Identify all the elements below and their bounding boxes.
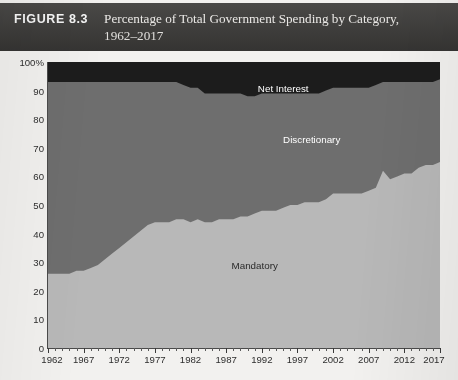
figure-title-line-2: 1962–2017 [104, 28, 399, 45]
x-tick-label: 1967 [73, 354, 94, 365]
area-chart-svg [48, 62, 440, 348]
x-tick-minor [426, 348, 427, 351]
x-tick-minor [77, 348, 78, 351]
x-tick-label: 1987 [216, 354, 237, 365]
x-axis-ticks [48, 348, 440, 353]
x-tick-minor [305, 348, 306, 351]
x-tick-minor [290, 348, 291, 351]
x-tick-minor [312, 348, 313, 351]
x-tick-minor [347, 348, 348, 351]
x-tick-label: 2017 [423, 354, 444, 365]
x-tick-minor [98, 348, 99, 351]
x-tick-major [440, 348, 441, 353]
y-axis-labels: 0102030405060708090100% [0, 51, 44, 360]
x-tick-minor [433, 348, 434, 351]
y-tick-label: 70 [2, 142, 44, 153]
x-tick-minor [91, 348, 92, 351]
y-tick-label: 40 [2, 228, 44, 239]
x-tick-minor [240, 348, 241, 351]
x-tick-minor [55, 348, 56, 351]
x-tick-major [404, 348, 405, 353]
x-tick-minor [276, 348, 277, 351]
x-tick-minor [183, 348, 184, 351]
figure-number-label: FIGURE 8.3 [14, 12, 88, 26]
y-tick-label: 20 [2, 285, 44, 296]
x-tick-minor [248, 348, 249, 351]
x-tick-minor [62, 348, 63, 351]
x-tick-minor [126, 348, 127, 351]
x-tick-label: 2007 [358, 354, 379, 365]
x-tick-major [262, 348, 263, 353]
figure-title-line-1: Percentage of Total Government Spending … [104, 11, 399, 28]
x-tick-minor [233, 348, 234, 351]
x-tick-minor [134, 348, 135, 351]
x-tick-minor [376, 348, 377, 351]
x-tick-major [155, 348, 156, 353]
y-tick-label: 50 [2, 200, 44, 211]
x-tick-minor [326, 348, 327, 351]
chart-area: 0102030405060708090100% 1962196719721977… [0, 51, 458, 380]
x-tick-minor [362, 348, 363, 351]
x-tick-label: 1962 [41, 354, 62, 365]
x-tick-minor [205, 348, 206, 351]
x-tick-minor [340, 348, 341, 351]
x-tick-major [297, 348, 298, 353]
x-tick-minor [176, 348, 177, 351]
y-tick-label: 0 [2, 343, 44, 354]
x-tick-minor [255, 348, 256, 351]
x-tick-minor [219, 348, 220, 351]
x-tick-major [119, 348, 120, 353]
x-tick-minor [112, 348, 113, 351]
y-tick-label: 30 [2, 257, 44, 268]
y-tick-label: 60 [2, 171, 44, 182]
figure-header-bar: FIGURE 8.3 Percentage of Total Governmen… [0, 3, 458, 51]
x-tick-major [333, 348, 334, 353]
x-tick-major [226, 348, 227, 353]
stacked-area-plot [48, 62, 440, 348]
x-tick-minor [69, 348, 70, 351]
y-tick-label: 90 [2, 85, 44, 96]
figure-root: FIGURE 8.3 Percentage of Total Governmen… [0, 0, 458, 380]
x-tick-minor [411, 348, 412, 351]
x-tick-label: 1992 [251, 354, 272, 365]
x-tick-minor [319, 348, 320, 351]
x-tick-minor [162, 348, 163, 351]
x-tick-major [369, 348, 370, 353]
x-tick-major [48, 348, 49, 353]
x-tick-minor [383, 348, 384, 351]
x-axis-labels: 1962196719721977198219871992199720022007… [0, 354, 458, 370]
y-tick-label: 100% [2, 57, 44, 68]
x-tick-minor [390, 348, 391, 351]
x-tick-label: 1977 [144, 354, 165, 365]
figure-title: Percentage of Total Government Spending … [104, 11, 399, 44]
y-axis-line [47, 62, 48, 349]
y-tick-label: 80 [2, 114, 44, 125]
x-tick-major [191, 348, 192, 353]
x-tick-minor [419, 348, 420, 351]
x-tick-minor [141, 348, 142, 351]
x-tick-minor [148, 348, 149, 351]
x-tick-minor [397, 348, 398, 351]
x-tick-minor [269, 348, 270, 351]
x-tick-minor [212, 348, 213, 351]
x-tick-minor [169, 348, 170, 351]
y-tick-label: 10 [2, 314, 44, 325]
x-tick-minor [105, 348, 106, 351]
x-tick-label: 1997 [287, 354, 308, 365]
x-tick-label: 2012 [394, 354, 415, 365]
x-tick-label: 2002 [322, 354, 343, 365]
x-tick-minor [354, 348, 355, 351]
x-tick-label: 1982 [180, 354, 201, 365]
x-tick-major [84, 348, 85, 353]
x-tick-minor [198, 348, 199, 351]
x-tick-label: 1972 [109, 354, 130, 365]
x-tick-minor [283, 348, 284, 351]
